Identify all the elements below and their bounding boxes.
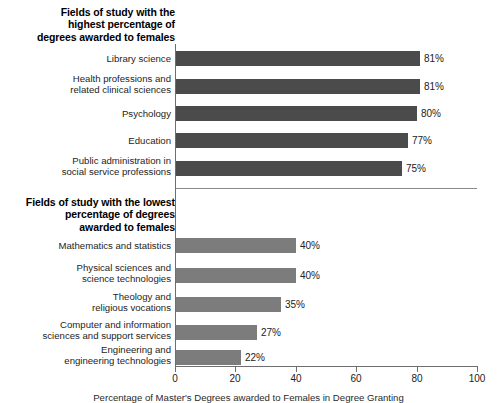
category-label-line2: social service professions [0,166,171,177]
category-label: Physical sciences and science technologi… [0,262,175,285]
category-label-line2: engineering technologies [0,355,171,366]
x-tick-20 [235,367,236,372]
panel-separator [175,188,477,189]
bar-computer-information-sciences [175,325,257,340]
bar-education [175,133,408,148]
category-label: Library science [0,53,175,64]
bar-engineering [175,350,241,365]
bar-value: 40% [300,270,320,281]
category-label-line1: Psychology [0,108,171,119]
panel-title-lowest-line3: awarded to females [6,221,175,233]
category-label-line1: Public administration in [0,155,171,166]
category-label: Health professions and related clinical … [0,73,175,96]
category-label-line2: religious vocations [0,302,171,313]
category-label-line2: related clinical sciences [0,84,171,95]
category-label: Mathematics and statistics [0,240,175,251]
category-label-line1: Health professions and [0,73,171,84]
bar-theology [175,297,281,312]
x-axis-line [175,366,478,367]
category-label: Psychology [0,108,175,119]
category-label-line1: Education [0,135,171,146]
x-tick-label-60: 60 [341,373,371,385]
category-label-line1: Physical sciences and [0,262,171,273]
bar-mathematics-statistics [175,238,296,253]
bar-library-science [175,51,420,66]
bar-public-administration [175,161,402,176]
y-axis-line [175,44,176,366]
bar-value: 35% [285,299,305,310]
x-axis-caption: Percentage of Master's Degrees awarded t… [0,392,497,403]
bar-value: 40% [300,240,320,251]
x-tick-label-40: 40 [281,373,311,385]
x-tick-40 [296,367,297,372]
category-label: Theology and religious vocations [0,291,175,314]
category-label-line2: science technologies [0,273,171,284]
bar-value: 75% [406,163,426,174]
bar-value: 27% [261,327,281,338]
category-label-line1: Engineering and [0,344,171,355]
panel-title-highest-line3: degrees awarded to females [10,31,175,43]
x-tick-label-80: 80 [402,373,432,385]
x-tick-label-20: 20 [220,373,250,385]
bar-value: 77% [412,135,432,146]
panel-title-lowest: Fields of study with the lowest percenta… [6,196,175,233]
bar-value: 22% [245,352,265,363]
bar-value: 81% [424,81,444,92]
category-label: Computer and information sciences and su… [0,319,175,342]
category-label-line1: Theology and [0,291,171,302]
x-tick-100 [477,367,478,372]
bar-health-professions [175,79,420,94]
category-label-line1: Library science [0,53,171,64]
panel-title-lowest-line2: percentage of degrees [6,208,175,220]
x-tick-60 [356,367,357,372]
category-label-line1: Computer and information [0,319,171,330]
category-label-line2: sciences and support services [0,330,171,341]
category-label: Education [0,135,175,146]
category-label: Engineering and engineering technologies [0,344,175,367]
category-label: Public administration in social service … [0,155,175,178]
panel-title-highest: Fields of study with the highest percent… [10,6,175,43]
x-tick-0 [175,367,176,372]
bar-psychology [175,106,417,121]
x-tick-80 [417,367,418,372]
bar-physical-sciences [175,268,296,283]
panel-title-lowest-line1: Fields of study with the lowest [6,196,175,208]
panel-title-highest-line1: Fields of study with the [10,6,175,18]
x-tick-label-0: 0 [160,373,190,385]
category-label-line1: Mathematics and statistics [0,240,171,251]
x-tick-label-100: 100 [462,373,492,385]
bar-value: 81% [424,53,444,64]
panel-title-highest-line2: highest percentage of [10,18,175,30]
bar-value: 80% [421,108,441,119]
